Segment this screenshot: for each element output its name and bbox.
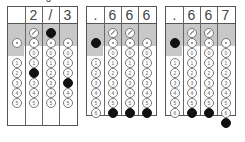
digit-bubble-1[interactable]: 1 [29,58,39,68]
digit-bubble-1[interactable]: 1 [125,58,135,68]
decimal-bubble[interactable] [29,38,39,48]
digit-bubble-5[interactable]: 5 [221,98,231,108]
digit-bubble-1[interactable]: 1 [63,58,73,68]
digit-bubble-4[interactable]: 4 [204,88,214,98]
digit-bubble-2[interactable]: 2 [29,68,39,78]
digit-bubble-2[interactable]: 2 [187,68,197,78]
digit-bubble-4[interactable]: 4 [12,88,22,98]
decimal-bubble[interactable] [46,38,56,48]
digit-bubble-4[interactable]: 4 [108,88,118,98]
digit-bubble-5[interactable]: 5 [204,98,214,108]
slash-bubble[interactable] [187,28,197,38]
digit-bubble-0[interactable]: 0 [187,48,197,58]
digit-bubble-0[interactable]: 0 [46,48,56,58]
digit-bubble-3[interactable]: 3 [142,78,152,88]
digit-bubble-3[interactable]: 3 [46,78,56,88]
digit-bubble-4[interactable]: 4 [221,88,231,98]
answer-header-cell [8,7,25,23]
decimal-bubble[interactable] [125,38,135,48]
digit-bubble-1[interactable]: 1 [46,58,56,68]
digit-bubble-1[interactable]: 1 [108,58,118,68]
slash-bubble[interactable] [125,28,135,38]
digit-bubble-1[interactable]: 1 [142,58,152,68]
digit-bubble-5[interactable]: 5 [142,98,152,108]
grid-in-answer-666: .666123456012345601234560123456 [86,6,157,116]
digit-bubble-3[interactable]: 3 [125,78,135,88]
digit-bubble-2[interactable]: 2 [204,68,214,78]
digit-bubble-5[interactable]: 5 [29,98,39,108]
digit-bubble-5[interactable]: 5 [187,98,197,108]
digit-bubble-5[interactable]: 5 [63,98,73,108]
digit-bubble-3[interactable]: 3 [91,78,101,88]
digit-bubble-0[interactable]: 0 [142,48,152,58]
digit-bubble-0[interactable]: 0 [204,48,214,58]
digit-bubble-6[interactable]: 6 [108,108,118,118]
digit-bubble-3[interactable]: 3 [63,78,73,88]
digit-bubble-5[interactable]: 5 [12,98,22,108]
digit-bubble-4[interactable]: 4 [170,88,180,98]
digit-bubble-4[interactable]: 4 [142,88,152,98]
digit-bubble-5[interactable]: 5 [108,98,118,108]
digit-bubble-1[interactable]: 1 [91,58,101,68]
digit-bubble-3[interactable]: 3 [12,78,22,88]
digit-bubble-3[interactable]: 3 [29,78,39,88]
digit-bubble-4[interactable]: 4 [125,88,135,98]
slash-bubble[interactable] [204,28,214,38]
digit-bubble-6[interactable]: 6 [187,108,197,118]
digit-bubble-4[interactable]: 4 [91,88,101,98]
digit-bubble-0[interactable]: 0 [108,48,118,58]
decimal-bubble[interactable] [12,38,22,48]
digit-bubble-1[interactable]: 1 [187,58,197,68]
digit-bubble-2[interactable]: 2 [125,68,135,78]
digit-bubble-0[interactable]: 0 [29,48,39,58]
digit-bubble-2[interactable]: 2 [221,68,231,78]
digit-bubble-1[interactable]: 1 [221,58,231,68]
digit-bubble-1[interactable]: 1 [204,58,214,68]
digit-bubble-3[interactable]: 3 [204,78,214,88]
digit-bubble-5[interactable]: 5 [91,98,101,108]
digit-bubble-6[interactable]: 6 [142,108,152,118]
decimal-bubble[interactable] [221,38,231,48]
digit-bubble-2[interactable]: 2 [63,68,73,78]
digit-bubble-2[interactable]: 2 [91,68,101,78]
digit-bubble-4[interactable]: 4 [46,88,56,98]
digit-bubble-2[interactable]: 2 [108,68,118,78]
digit-bubble-1[interactable]: 1 [12,58,22,68]
digit-bubble-7[interactable]: 7 [221,118,231,128]
digit-bubble-2[interactable]: 2 [170,68,180,78]
decimal-bubble[interactable] [91,38,101,48]
digit-bubble-4[interactable]: 4 [187,88,197,98]
digit-bubble-4[interactable]: 4 [63,88,73,98]
digit-bubble-0[interactable]: 0 [63,48,73,58]
digit-bubble-3[interactable]: 3 [187,78,197,88]
digit-bubble-6[interactable]: 6 [204,108,214,118]
digit-bubble-4[interactable]: 4 [29,88,39,98]
decimal-bubble[interactable] [187,38,197,48]
digit-bubble-0[interactable]: 0 [221,48,231,58]
digit-bubble-5[interactable]: 5 [125,98,135,108]
digit-bubble-6[interactable]: 6 [170,108,180,118]
digit-bubble-6[interactable]: 6 [125,108,135,118]
digit-bubble-2[interactable]: 2 [46,68,56,78]
digit-bubble-6[interactable]: 6 [91,108,101,118]
answer-header-cell: 2 [25,7,42,23]
digit-bubble-0[interactable]: 0 [125,48,135,58]
digit-bubble-3[interactable]: 3 [108,78,118,88]
digit-bubble-5[interactable]: 5 [170,98,180,108]
answer-header-cell: 6 [121,7,138,23]
digit-bubble-2[interactable]: 2 [142,68,152,78]
decimal-bubble[interactable] [142,38,152,48]
digit-bubble-5[interactable]: 5 [46,98,56,108]
slash-bubble[interactable] [108,28,118,38]
decimal-bubble[interactable] [108,38,118,48]
digit-bubble-3[interactable]: 3 [221,78,231,88]
decimal-bubble[interactable] [170,38,180,48]
digit-bubble-2[interactable]: 2 [12,68,22,78]
slash-bubble[interactable] [29,28,39,38]
decimal-bubble[interactable] [63,38,73,48]
digit-bubble-1[interactable]: 1 [170,58,180,68]
slash-bubble[interactable] [46,28,56,38]
decimal-bubble[interactable] [204,38,214,48]
digit-bubble-3[interactable]: 3 [170,78,180,88]
digit-bubble-6[interactable]: 6 [221,108,231,118]
